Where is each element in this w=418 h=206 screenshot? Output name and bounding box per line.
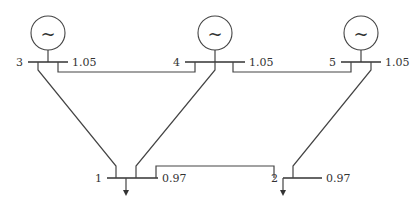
bus-label-1: 1 — [95, 172, 102, 185]
line-5-2 — [293, 62, 371, 178]
generator-bus-4: ~ — [198, 16, 232, 62]
bus-label-4: 4 — [173, 56, 180, 69]
bus-label-2: 2 — [271, 172, 278, 185]
line-4-1 — [136, 62, 215, 178]
bus-voltage-1: 0.97 — [162, 172, 187, 185]
generator-bus-5: ~ — [344, 16, 378, 62]
bus-label-5: 5 — [329, 56, 336, 69]
load-bus-1 — [123, 178, 129, 196]
bus-voltage-3: 1.05 — [72, 56, 97, 69]
generator-bus-3: ~ — [31, 16, 65, 62]
one-line-diagram: ~ ~ ~ 3 1.05 4 1.05 5 1.05 1 0.97 2 0.97 — [0, 0, 418, 206]
load-arrow-icon — [123, 190, 129, 196]
ac-source-icon: ~ — [353, 23, 368, 44]
line-3-1 — [38, 62, 116, 178]
ac-source-icon: ~ — [40, 23, 55, 44]
load-bus-2 — [280, 178, 286, 196]
bus-voltage-2: 0.97 — [326, 172, 351, 185]
bus-voltage-5: 1.05 — [385, 56, 410, 69]
bus-label-3: 3 — [16, 56, 23, 69]
ac-source-icon: ~ — [207, 23, 222, 44]
bus-voltage-4: 1.05 — [249, 56, 274, 69]
load-arrow-icon — [280, 190, 286, 196]
